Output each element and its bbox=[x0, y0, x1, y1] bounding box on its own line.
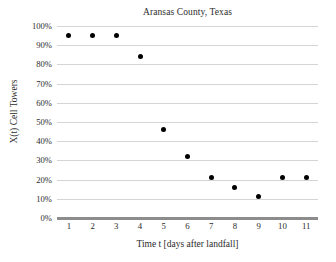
x-axis-tick-label: 1 bbox=[58, 221, 80, 232]
data-point bbox=[304, 175, 309, 180]
y-axis-tick-label: 20% bbox=[6, 176, 52, 185]
y-axis-tick-label: 30% bbox=[6, 156, 52, 165]
gridline bbox=[57, 122, 318, 123]
gridline bbox=[57, 141, 318, 142]
gridline bbox=[57, 26, 318, 27]
x-axis-title: Time t [days after landfall] bbox=[57, 238, 318, 250]
y-axis-tick-label: 90% bbox=[6, 41, 52, 50]
gridline bbox=[57, 103, 318, 104]
chart-container: Aransas County, Texas X(t) Cell Towers 0… bbox=[0, 0, 336, 262]
x-axis-tick-label: 4 bbox=[129, 221, 151, 232]
x-axis-tick-label: 8 bbox=[224, 221, 246, 232]
gridline bbox=[57, 84, 318, 85]
x-axis-tick-label: 2 bbox=[82, 221, 104, 232]
x-axis-tick-label: 3 bbox=[105, 221, 127, 232]
x-axis-tick-label: 7 bbox=[200, 221, 222, 232]
data-point bbox=[90, 33, 95, 38]
y-axis-tick-label: 60% bbox=[6, 99, 52, 108]
gridline bbox=[57, 180, 318, 181]
x-axis-tick-label: 6 bbox=[177, 221, 199, 232]
x-axis-tick-label: 11 bbox=[295, 221, 317, 232]
data-point bbox=[138, 54, 143, 59]
data-point bbox=[161, 127, 166, 132]
data-point bbox=[66, 33, 71, 38]
x-axis-tick-label: 10 bbox=[271, 221, 293, 232]
x-axis-tick-label: 9 bbox=[248, 221, 270, 232]
x-axis-tick-label: 5 bbox=[153, 221, 175, 232]
gridline bbox=[57, 160, 318, 161]
y-axis-tick-label: 0% bbox=[6, 214, 52, 223]
y-axis-tick-label: 40% bbox=[6, 137, 52, 146]
gridline bbox=[57, 45, 318, 46]
gridline bbox=[57, 64, 318, 65]
y-axis-tick-label: 10% bbox=[6, 195, 52, 204]
y-axis-tick-label: 100% bbox=[6, 22, 52, 31]
chart-title: Aransas County, Texas bbox=[57, 6, 318, 18]
data-point bbox=[114, 33, 119, 38]
data-point bbox=[232, 185, 237, 190]
gridline bbox=[57, 199, 318, 200]
x-axis-line bbox=[57, 217, 318, 219]
y-axis-tick-label: 50% bbox=[6, 118, 52, 127]
y-axis-tick-label: 70% bbox=[6, 80, 52, 89]
y-axis-tick-label: 80% bbox=[6, 60, 52, 69]
plot-area bbox=[57, 26, 318, 218]
data-point bbox=[209, 175, 214, 180]
data-point bbox=[185, 154, 190, 159]
